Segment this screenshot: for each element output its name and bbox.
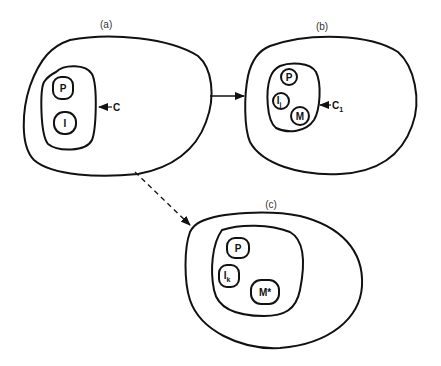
node-M-star-label: M*: [259, 287, 271, 298]
node-Ij-label: Ij: [277, 95, 282, 109]
panel-c-label: (c): [265, 199, 277, 210]
panel-c: (c) P Ik M*: [186, 199, 363, 348]
panel-a: (a) P I C: [24, 19, 212, 176]
panel-b: (b) P Ij M C1: [245, 21, 416, 174]
node-P-label: P: [235, 243, 242, 254]
node-M-label: M: [296, 111, 304, 122]
panel-b-label: (b): [316, 21, 328, 32]
node-P-label: P: [60, 83, 67, 94]
node-P-label: P: [286, 72, 293, 83]
node-I-label: I: [64, 118, 67, 129]
panel-a-label: (a): [100, 19, 112, 30]
node-Ik-label: Ik: [224, 270, 231, 283]
diagram-canvas: (a) P I C (b) P Ij M C1 (c) P Ik M*: [0, 0, 441, 366]
compartment-c1-label: C1: [332, 100, 343, 113]
compartment-c-label: C: [113, 102, 120, 113]
arrow-a-to-c-dashed: [135, 172, 190, 225]
